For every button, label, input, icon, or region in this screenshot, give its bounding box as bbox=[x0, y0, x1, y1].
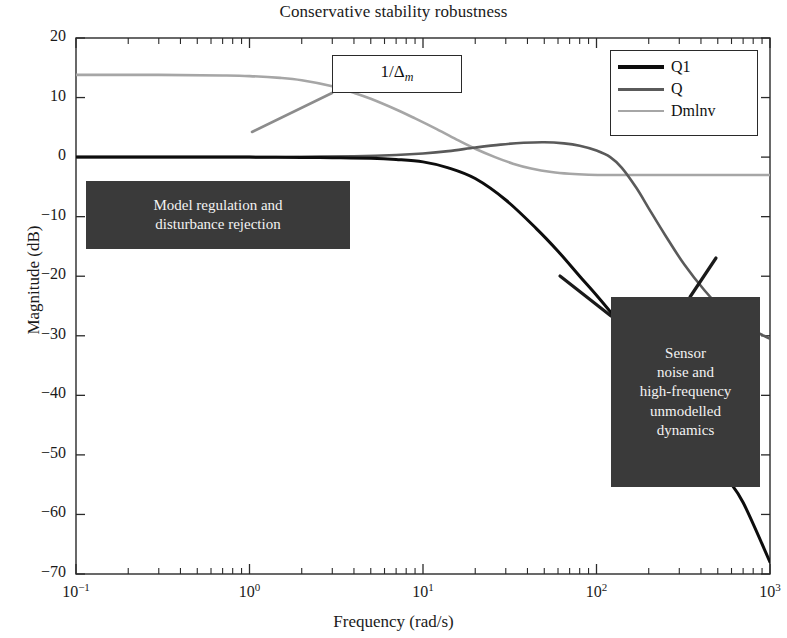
chart-legend: Q1QDmlnv bbox=[610, 50, 758, 136]
legend-label: Q1 bbox=[671, 59, 691, 75]
legend-swatch bbox=[618, 88, 664, 91]
legend-item: Q bbox=[618, 78, 748, 100]
y-tick-label: −30 bbox=[16, 325, 66, 343]
y-tick-label: −20 bbox=[16, 265, 66, 283]
annotation-delta-m-text: 1/Δm bbox=[381, 62, 414, 85]
x-tick-label: 103 bbox=[735, 581, 787, 601]
y-tick-label: −40 bbox=[16, 384, 66, 402]
y-tick-label: −70 bbox=[16, 563, 66, 581]
y-tick-label: 20 bbox=[16, 27, 66, 45]
y-tick-label: 10 bbox=[16, 87, 66, 105]
annotation-low-frequency-text: Model regulation and disturbance rejecti… bbox=[153, 196, 282, 234]
y-tick-label: −10 bbox=[16, 206, 66, 224]
annotation-leader-line bbox=[252, 93, 332, 132]
x-tick-label: 100 bbox=[215, 581, 285, 601]
legend-label: Q bbox=[671, 81, 683, 97]
legend-item: Dmlnv bbox=[618, 100, 748, 122]
y-tick-label: −50 bbox=[16, 444, 66, 462]
annotation-high-frequency: Sensor noise and high-frequency unmodell… bbox=[611, 297, 760, 487]
legend-item: Q1 bbox=[618, 56, 748, 78]
x-tick-label: 10−1 bbox=[41, 581, 111, 601]
chart-figure: Conservative stability robustness Magnit… bbox=[0, 0, 787, 638]
x-tick-label: 102 bbox=[562, 581, 632, 601]
legend-swatch bbox=[618, 65, 664, 69]
legend-label: Dmlnv bbox=[671, 103, 715, 119]
y-tick-label: 0 bbox=[16, 146, 66, 164]
annotation-low-frequency: Model regulation and disturbance rejecti… bbox=[86, 181, 350, 249]
annotation-delta-m: 1/Δm bbox=[332, 55, 462, 93]
x-tick-label: 101 bbox=[388, 581, 458, 601]
annotation-high-frequency-text: Sensor noise and high-frequency unmodell… bbox=[640, 344, 732, 440]
y-tick-label: −60 bbox=[16, 503, 66, 521]
legend-swatch bbox=[618, 110, 664, 112]
